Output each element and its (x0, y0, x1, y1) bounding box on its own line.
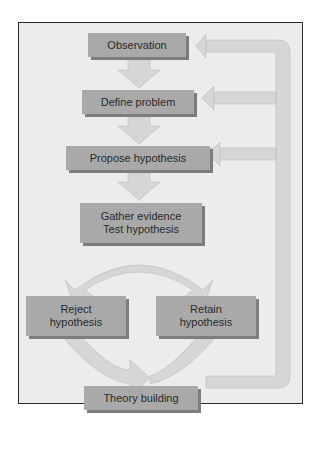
node-propose-hypothesis: Propose hypothesis (66, 146, 210, 170)
node-reject-hypothesis: Reject hypothesis (26, 296, 126, 336)
node-observation: Observation (88, 33, 186, 57)
node-define-problem: Define problem (82, 90, 194, 114)
arrow-down-2 (118, 112, 160, 144)
arrow-down-3 (118, 168, 160, 200)
merge-arc-right (150, 330, 213, 384)
arrow-down-1 (118, 56, 160, 88)
node-gather-evidence: Gather evidence Test hypothesis (80, 203, 202, 243)
node-retain-hypothesis: Retain hypothesis (156, 296, 256, 336)
node-theory-building: Theory building (84, 386, 198, 410)
